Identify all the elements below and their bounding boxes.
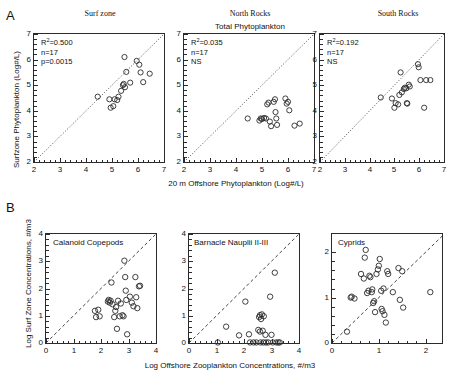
b3-x-minor-tick bbox=[351, 341, 352, 344]
reference-line-1-to-1 bbox=[189, 234, 299, 343]
b2-x-minor-tick bbox=[228, 341, 229, 344]
a1-y-minor-tick bbox=[34, 106, 37, 107]
scatter-canvas-b1 bbox=[46, 234, 156, 343]
a3-x-tick-label: 6 bbox=[410, 165, 428, 174]
a1-x-minor-tick bbox=[44, 160, 45, 163]
a2-y-minor-tick bbox=[184, 106, 187, 107]
a1-x-minor-tick bbox=[70, 160, 71, 163]
data-point bbox=[223, 324, 228, 329]
b2-y-minor-tick bbox=[189, 299, 192, 300]
b2-y-minor-tick bbox=[189, 332, 192, 333]
a1-x-minor-tick bbox=[154, 160, 155, 163]
section-letter-a: A bbox=[6, 8, 15, 23]
b1-x-minor-tick bbox=[85, 341, 86, 344]
data-point bbox=[128, 80, 133, 85]
data-point bbox=[422, 105, 427, 110]
a1-y-major-tick bbox=[34, 34, 38, 35]
b3-y-minor-tick bbox=[332, 279, 335, 280]
a1-y-minor-tick bbox=[34, 101, 37, 102]
b3-x-minor-tick bbox=[369, 341, 370, 344]
b1-x-minor-tick bbox=[79, 341, 80, 344]
a1-x-minor-tick bbox=[159, 160, 160, 163]
scatter-plot-calanoid-copepods bbox=[45, 233, 157, 344]
a3-y-minor-tick bbox=[320, 152, 323, 153]
b2-x-major-tick bbox=[244, 339, 245, 343]
a3-y-tick-label: 6 bbox=[307, 55, 317, 64]
b2-x-major-tick bbox=[272, 339, 273, 343]
a3-x-minor-tick bbox=[429, 160, 430, 163]
a3-x-minor-tick bbox=[389, 160, 390, 163]
b3-x-tick-label: 0 bbox=[323, 346, 341, 355]
a2-x-minor-tick bbox=[272, 160, 273, 163]
b1-y-minor-tick bbox=[46, 305, 49, 306]
a3-y-major-tick bbox=[320, 111, 324, 112]
a1-y-minor-tick bbox=[34, 121, 37, 122]
a1-x-minor-tick bbox=[39, 160, 40, 163]
data-point bbox=[141, 80, 146, 85]
a1-x-minor-tick bbox=[107, 160, 108, 163]
data-point bbox=[362, 255, 367, 260]
a3-x-tick-label: 7 bbox=[435, 165, 452, 174]
a3-x-minor-tick bbox=[325, 160, 326, 163]
a1-x-minor-tick bbox=[91, 160, 92, 163]
a1-y-major-tick bbox=[34, 111, 38, 112]
data-point bbox=[133, 274, 138, 279]
a3-y-minor-tick bbox=[320, 116, 323, 117]
a1-y-minor-tick bbox=[34, 54, 37, 55]
b1-x-minor-tick bbox=[52, 341, 53, 344]
b2-x-minor-tick bbox=[255, 341, 256, 344]
panel-title-south-rocks: South Rocks bbox=[338, 9, 452, 18]
a2-y-tick-label: 7 bbox=[171, 29, 181, 38]
panel-a-x-axis-label: 20 m Offshore Phytoplankton (Log#/L) bbox=[146, 179, 326, 188]
data-point bbox=[428, 289, 433, 294]
data-point bbox=[109, 280, 114, 285]
scatter-plot-barnacle-nauplii bbox=[188, 233, 300, 344]
a1-y-minor-tick bbox=[34, 70, 37, 71]
a1-y-tick-label: 6 bbox=[21, 55, 31, 64]
panel-label-calanoid-copepods: Calanoid Copepods bbox=[53, 238, 123, 247]
b1-x-major-tick bbox=[156, 339, 157, 343]
data-point bbox=[96, 307, 101, 312]
b3-y-minor-tick bbox=[332, 307, 335, 308]
a3-x-minor-tick bbox=[355, 160, 356, 163]
b2-x-minor-tick bbox=[239, 341, 240, 344]
b2-y-major-tick bbox=[189, 289, 193, 290]
data-point bbox=[92, 308, 97, 313]
data-point bbox=[124, 69, 129, 74]
b2-x-tick-label: 0 bbox=[180, 346, 198, 355]
b2-x-minor-tick bbox=[266, 341, 267, 344]
a1-y-minor-tick bbox=[34, 131, 37, 132]
a3-x-major-tick bbox=[345, 158, 346, 162]
a2-y-minor-tick bbox=[184, 131, 187, 132]
data-point bbox=[243, 299, 248, 304]
a2-x-tick-label: 4 bbox=[227, 165, 245, 174]
b2-x-tick-label: 2 bbox=[235, 346, 253, 355]
a1-x-tick-label: 4 bbox=[77, 165, 95, 174]
a1-y-minor-tick bbox=[34, 152, 37, 153]
data-point bbox=[272, 270, 277, 275]
a3-y-minor-tick bbox=[320, 80, 323, 81]
b2-x-minor-tick bbox=[222, 341, 223, 344]
data-point bbox=[383, 320, 388, 325]
b2-y-tick-label: 4 bbox=[176, 229, 186, 238]
data-point bbox=[123, 274, 128, 279]
data-point bbox=[127, 294, 132, 299]
a3-y-minor-tick bbox=[320, 95, 323, 96]
a3-y-minor-tick bbox=[320, 121, 323, 122]
a3-y-major-tick bbox=[320, 162, 324, 163]
a3-x-minor-tick bbox=[409, 160, 410, 163]
data-point bbox=[344, 329, 349, 334]
b2-y-minor-tick bbox=[189, 256, 192, 257]
a2-y-major-tick bbox=[184, 136, 188, 137]
n-value-a1: n=17 bbox=[41, 48, 73, 58]
a2-x-tick-label: 2 bbox=[175, 165, 193, 174]
a3-x-tick-label: 4 bbox=[361, 165, 379, 174]
b1-y-tick-label: 0 bbox=[33, 338, 43, 347]
a2-x-minor-tick bbox=[194, 160, 195, 163]
b2-y-minor-tick bbox=[189, 267, 192, 268]
b2-x-minor-tick bbox=[200, 341, 201, 344]
a3-x-minor-tick bbox=[350, 160, 351, 163]
b1-x-major-tick bbox=[101, 339, 102, 343]
scatter-canvas-b2 bbox=[189, 234, 299, 343]
b3-y-tick-label: 1 bbox=[319, 293, 329, 302]
